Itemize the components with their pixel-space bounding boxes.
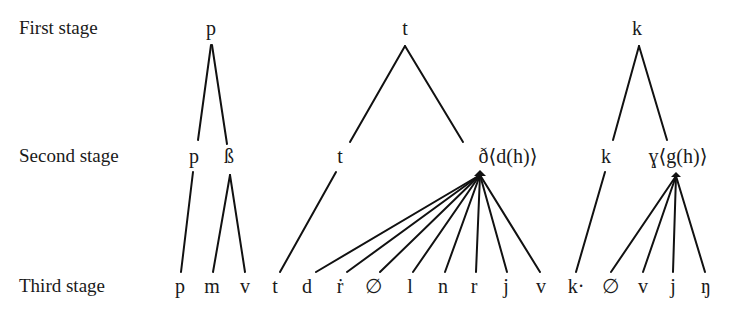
stage-label-first: First stage: [19, 18, 98, 37]
k-second-node: ɣ⟨g(h)⟩: [649, 146, 708, 166]
k-third-node: v: [638, 276, 648, 296]
t-root-node: t: [402, 18, 408, 38]
stage-label-second: Second stage: [19, 146, 119, 165]
p-third-node: p: [175, 276, 185, 296]
k-third-node: k·: [568, 276, 585, 296]
k-second-node: k: [601, 146, 611, 166]
t-third-node: n: [438, 276, 448, 296]
t-third-node: j: [503, 276, 509, 296]
t-third-node: r: [471, 276, 478, 296]
p-second-node: p: [189, 146, 199, 166]
t-third-node: l: [407, 276, 413, 296]
t-second-node: ð⟨d(h)⟩: [479, 146, 538, 166]
p-second-node: ß: [224, 146, 234, 166]
t-third-node: v: [536, 276, 546, 296]
p-third-node: m: [204, 276, 220, 296]
stage-label-third: Third stage: [19, 276, 105, 295]
k-root-node: k: [632, 18, 642, 38]
k-third-node: ∅: [602, 276, 619, 296]
k-third-node: j: [670, 276, 676, 296]
k-third-node: ŋ: [701, 276, 711, 296]
t-third-node: d: [302, 276, 312, 296]
p-third-node: v: [240, 276, 250, 296]
t-third-node: ṙ: [337, 276, 344, 296]
t-third-node: t: [272, 276, 278, 296]
t-second-node: t: [337, 146, 343, 166]
p-root-node: p: [206, 18, 216, 38]
t-third-node: ∅: [365, 276, 382, 296]
